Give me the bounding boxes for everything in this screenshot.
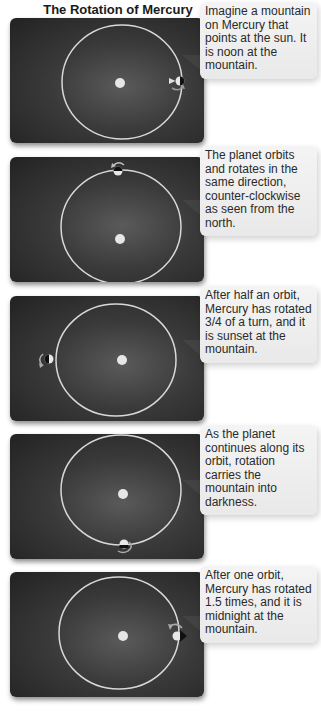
caption-callout-2: The planet orbits and rotates in the sam… [200,146,317,236]
caption-callout-5: After one orbit, Mercury has rotated 1.5… [200,566,317,643]
sun-icon [115,234,125,244]
sun-icon [117,355,127,365]
caption-text: Imagine a mountain on Mercury that point… [205,4,310,72]
orbit-panel-1 [10,18,204,143]
mercury-planet-icon [118,540,131,553]
orbit-panel-3 [10,296,204,421]
sun-icon [118,631,128,641]
caption-text: The planet orbits and rotates in the sam… [205,148,300,230]
caption-callout-3: After half an orbit, Mercury has rotated… [200,286,317,363]
sun-icon [115,78,125,88]
caption-text: After one orbit, Mercury has rotated 1.5… [205,568,312,636]
caption-text: As the planet continues along its orbit,… [205,427,304,509]
sun-icon [118,489,128,499]
orbit-path [61,170,181,282]
mercury-planet-icon [169,77,185,90]
orbit-panel-5 [10,572,204,697]
mercury-planet-icon [39,354,54,368]
orbit-path [56,304,176,416]
caption-text: After half an orbit, Mercury has rotated… [205,288,312,356]
caption-callout-4: As the planet continues along its orbit,… [200,425,317,515]
orbit-panel-2 [10,157,204,282]
orbit-panel-4 [10,434,204,559]
caption-callout-1: Imagine a mountain on Mercury that point… [200,2,317,79]
mercury-planet-icon [111,163,124,176]
diagram-title: The Rotation of Mercury [38,2,198,17]
